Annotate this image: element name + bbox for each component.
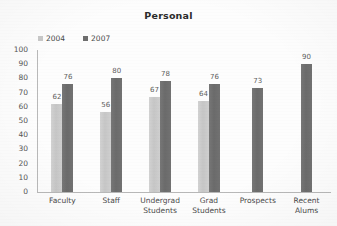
bar-2007[interactable]: 80 — [111, 78, 122, 192]
y-axis-tick-label: 50 — [18, 117, 28, 125]
bar-value-label: 78 — [161, 71, 170, 78]
bar-slot: 73 — [252, 50, 263, 192]
bar-group: 73 — [233, 50, 282, 192]
y-axis-tick-label: 30 — [18, 146, 28, 154]
bar-group: 6276 — [38, 50, 87, 192]
legend-entry-2007[interactable]: 2007 — [83, 35, 110, 43]
bar-slot: 64 — [198, 50, 209, 192]
bar-2004[interactable]: 56 — [100, 112, 111, 192]
bar-pair: 5680 — [87, 50, 136, 192]
legend-label: 2007 — [91, 35, 110, 43]
y-axis-tick-label: 0 — [23, 188, 28, 196]
y-axis-tick-label: 60 — [18, 103, 28, 111]
bar-value-label: 80 — [112, 68, 121, 75]
bar-value-label: 73 — [253, 78, 262, 85]
bar-slot: 76 — [209, 50, 220, 192]
bar-2004[interactable]: 62 — [51, 104, 62, 192]
bar-2007[interactable]: 76 — [62, 84, 73, 192]
y-axis-tick-label: 10 — [18, 174, 28, 182]
bar-2007[interactable]: 73 — [252, 88, 263, 192]
plot-area: 62765680677864767390 — [38, 50, 331, 192]
bar-group: 6476 — [185, 50, 234, 192]
y-axis-tick-label: 90 — [18, 60, 28, 68]
bar-pair: 6276 — [38, 50, 87, 192]
x-axis-category-label: Recent Alums — [273, 196, 337, 215]
bar-value-label: 90 — [302, 54, 311, 61]
bar-slot: 78 — [160, 50, 171, 192]
bar-slot: 80 — [111, 50, 122, 192]
bar-2004[interactable]: 67 — [149, 97, 160, 192]
bar-chart: Personal 20042007 1009080706050403020100… — [0, 0, 337, 226]
bar-value-label: 64 — [199, 91, 208, 98]
x-axis-category-labels: FacultyStaffUndergrad StudentsGrad Stude… — [38, 196, 331, 226]
bar-2007[interactable]: 76 — [209, 84, 220, 192]
y-axis-tick-label: 80 — [18, 75, 28, 83]
bar-2004[interactable]: 64 — [198, 101, 209, 192]
bar-2007[interactable]: 78 — [160, 81, 171, 192]
bar-slot: 90 — [301, 50, 312, 192]
bar-value-label: 67 — [150, 87, 159, 94]
bar-value-label: 62 — [52, 94, 61, 101]
legend-swatch-icon — [83, 36, 88, 41]
bar-pair: 90 — [282, 50, 331, 192]
y-axis-tick-label: 70 — [18, 89, 28, 97]
bar-slot: 67 — [149, 50, 160, 192]
bar-group: 5680 — [87, 50, 136, 192]
chart-legend: 20042007 — [38, 35, 110, 43]
bar-value-label: 76 — [63, 74, 72, 81]
legend-entry-2004[interactable]: 2004 — [38, 35, 65, 43]
legend-label: 2004 — [46, 35, 65, 43]
x-axis-line — [37, 192, 331, 193]
y-axis-tick-label: 40 — [18, 131, 28, 139]
legend-swatch-icon — [38, 36, 43, 41]
y-axis-tick-label: 100 — [14, 46, 28, 54]
bar-value-label: 76 — [210, 74, 219, 81]
bar-group: 6778 — [136, 50, 185, 192]
bar-pair: 6476 — [185, 50, 234, 192]
bar-pair: 73 — [233, 50, 282, 192]
bar-slot: 62 — [51, 50, 62, 192]
bar-group: 90 — [282, 50, 331, 192]
chart-title: Personal — [0, 10, 337, 21]
bar-slot: 76 — [62, 50, 73, 192]
y-axis-tick-label: 20 — [18, 160, 28, 168]
bar-pair: 6778 — [136, 50, 185, 192]
bar-value-label: 56 — [101, 102, 110, 109]
y-axis-tick-labels: 1009080706050403020100 — [0, 0, 34, 226]
bar-slot: 56 — [100, 50, 111, 192]
bar-2007[interactable]: 90 — [301, 64, 312, 192]
